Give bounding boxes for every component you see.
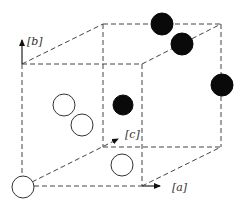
back-face	[103, 24, 221, 147]
b-axis-label: [b]	[27, 35, 43, 48]
open-atom	[71, 114, 93, 136]
open-atom	[53, 94, 75, 116]
unit-cell-diagram: [b] [c] [a]	[0, 0, 244, 209]
filled-atom	[113, 95, 133, 115]
open-atom-origin	[12, 176, 34, 198]
c-axis-label: [c]	[125, 128, 140, 141]
filled-atom	[171, 33, 193, 55]
c-axis-line	[32, 139, 118, 182]
a-axis-label: [a]	[172, 181, 188, 194]
filled-atom	[151, 13, 173, 35]
filled-atom	[211, 74, 233, 96]
open-atom	[111, 154, 133, 176]
